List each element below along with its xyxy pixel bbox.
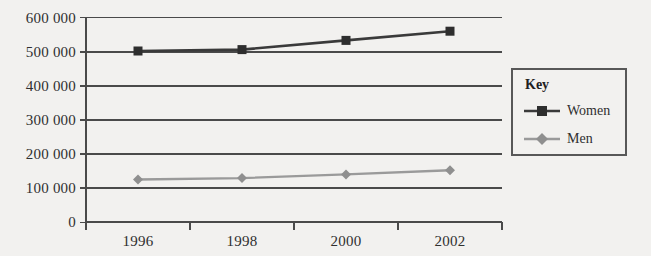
gridlines xyxy=(86,18,502,189)
data-point-men-2000 xyxy=(341,169,351,179)
x-axis-ticks xyxy=(86,222,502,230)
x-tick-label-2000: 2000 xyxy=(331,234,362,249)
data-point-men-1998 xyxy=(237,173,247,183)
data-point-women-1998 xyxy=(238,45,247,54)
legend-title: Key xyxy=(525,78,549,92)
legend-entry-men: Men xyxy=(523,130,623,148)
data-point-men-1996 xyxy=(133,175,143,185)
data-point-women-2002 xyxy=(446,27,455,36)
y-tick-label-400000: 400 000 xyxy=(0,78,76,93)
y-tick-label-0: 0 xyxy=(0,215,76,230)
legend-marker-women-icon xyxy=(523,102,561,120)
x-tick-label-2002: 2002 xyxy=(435,234,466,249)
y-tick-label-500000: 500 000 xyxy=(0,44,76,59)
legend-label-men: Men xyxy=(567,131,593,147)
x-tick-label-1998: 1998 xyxy=(227,234,258,249)
y-tick-label-100000: 100 000 xyxy=(0,181,76,196)
legend: Key Women Men xyxy=(511,68,627,156)
y-tick-label-200000: 200 000 xyxy=(0,147,76,162)
data-point-women-1996 xyxy=(134,47,143,56)
series-women-line xyxy=(138,31,450,51)
y-tick-label-300000: 300 000 xyxy=(0,112,76,127)
data-point-women-2000 xyxy=(342,36,351,45)
data-point-men-2002 xyxy=(445,165,455,175)
x-tick-label-1996: 1996 xyxy=(123,234,154,249)
series-men xyxy=(133,165,455,184)
line-chart-figure: 600 000 500 000 400 000 300 000 200 000 … xyxy=(0,0,651,256)
series-men-line xyxy=(138,170,450,179)
legend-marker-men-icon xyxy=(523,130,561,148)
legend-label-women: Women xyxy=(567,103,610,119)
legend-entry-women: Women xyxy=(523,102,623,120)
y-tick-label-600000: 600 000 xyxy=(0,10,76,25)
